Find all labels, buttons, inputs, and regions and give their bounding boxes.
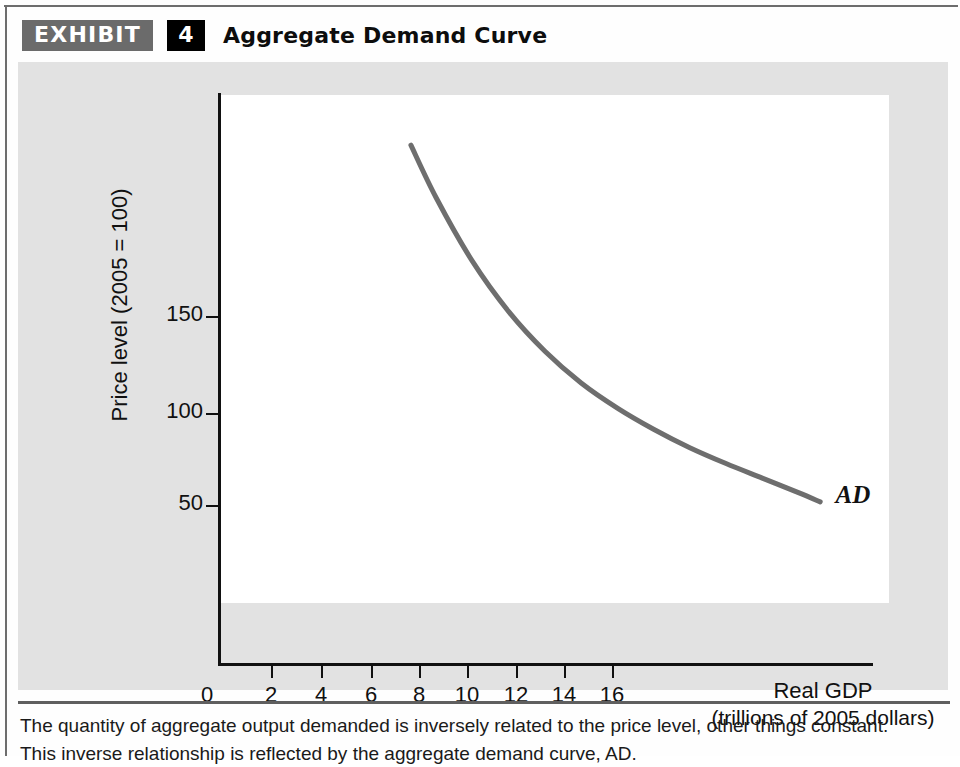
- x-axis-tick-label: 6: [351, 682, 391, 708]
- exhibit-header: EXHIBIT 4 Aggregate Demand Curve: [22, 18, 547, 52]
- figure-panel: 15010050 0246810121416 Price level (2005…: [18, 62, 948, 690]
- x-axis-tick: [467, 666, 469, 678]
- y-axis-line: [218, 93, 221, 666]
- caption-line-2: This inverse relationship is reflected b…: [20, 740, 940, 767]
- x-axis-tick: [321, 666, 323, 678]
- x-axis-tick-label: 2: [251, 682, 291, 708]
- x-axis-tick-label: 14: [544, 682, 584, 708]
- page-title: Aggregate Demand Curve: [223, 23, 547, 48]
- x-axis-tick: [371, 666, 373, 678]
- x-axis-tick: [516, 666, 518, 678]
- y-axis-tick-label: 150: [143, 301, 203, 327]
- caption-divider: [18, 701, 950, 704]
- x-axis-tick-label: 0: [187, 682, 227, 708]
- y-axis-tick-label: 100: [143, 398, 203, 424]
- y-axis-tick: [206, 505, 219, 507]
- ad-curve-label: AD: [836, 481, 871, 509]
- caption-line-1: The quantity of aggregate output demande…: [20, 712, 940, 740]
- x-axis-tick: [564, 666, 566, 678]
- x-axis-tick: [612, 666, 614, 678]
- page-left-rule: [5, 5, 7, 756]
- y-axis-tick: [206, 413, 219, 415]
- x-axis-tick-label: 12: [496, 682, 536, 708]
- exhibit-badge: EXHIBIT: [22, 20, 153, 51]
- x-axis-tick-label: 8: [399, 682, 439, 708]
- y-axis-tick: [206, 316, 219, 318]
- plot-canvas: [219, 95, 889, 603]
- x-axis-tick: [419, 666, 421, 678]
- x-axis-tick: [271, 666, 273, 678]
- figure-caption: The quantity of aggregate output demande…: [20, 712, 940, 767]
- page-top-rule: [4, 5, 958, 7]
- x-axis-tick-label: 10: [447, 682, 487, 708]
- x-axis-line: [218, 663, 873, 666]
- y-axis-tick-label: 50: [143, 490, 203, 516]
- x-axis-tick-label: 4: [301, 682, 341, 708]
- y-axis-title: Price level (2005 = 100): [107, 155, 133, 455]
- x-axis-tick-label: 16: [592, 682, 632, 708]
- exhibit-number-badge: 4: [167, 20, 205, 51]
